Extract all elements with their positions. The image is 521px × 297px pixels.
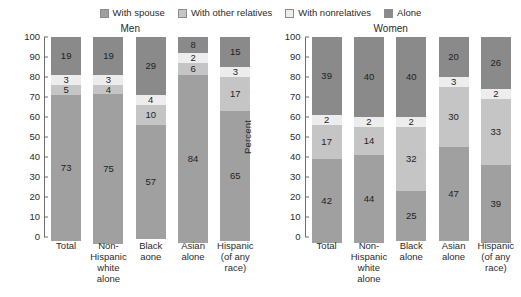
bar-segment-alone[interactable]: 40 [396,37,426,117]
bar-segment-other_relatives[interactable]: 5 [51,85,81,95]
x-axis-label: Blackalone [390,240,432,284]
bar-segment-value: 39 [321,71,332,81]
bar-segment-other_relatives[interactable]: 32 [396,127,426,191]
y-tick-label: 0 [35,232,40,242]
bar-segment-nonrelatives[interactable]: 2 [178,53,208,63]
bar-segment-value: 10 [145,110,156,120]
stacked-bar[interactable]: 3921742 [312,37,342,237]
y-tick-label: 90 [29,52,40,62]
y-tick-label: 50 [29,132,40,142]
bar-segment-value: 4 [148,95,153,105]
y-axis-ticks: 1009080706050403020100 [18,37,44,237]
bar-segment-other_relatives[interactable]: 10 [136,105,166,125]
bar-segment-value: 3 [233,67,238,77]
x-axis-label: Total [306,240,348,284]
bar-segment-alone[interactable]: 19 [51,37,81,75]
bar-segment-alone[interactable]: 15 [220,37,250,67]
bar-segment-nonrelatives[interactable]: 2 [396,117,426,127]
bar-segment-other_relatives[interactable]: 14 [354,127,384,155]
bar-segment-value: 42 [321,196,332,206]
y-tick-label: 100 [24,32,40,42]
x-axis-label-line: alone [433,251,473,262]
bar-segment-nonrelatives[interactable]: 3 [439,77,469,87]
bar-segment-value: 8 [190,40,195,50]
bar-segment-value: 75 [103,164,114,174]
bar-segment-nonrelatives[interactable]: 4 [136,95,166,105]
bar-segment-spouse[interactable]: 39 [481,165,511,243]
bars-container: 1935731934752941057826841531765 [45,37,257,237]
bar-slot: 2941057 [130,37,172,237]
y-axis-ticks: 1009080706050403020100 [279,37,305,237]
bar-slot: 4021444 [348,37,390,237]
bar-segment-alone[interactable]: 39 [312,37,342,115]
bar-segment-value: 2 [324,115,329,125]
bar-segment-value: 2 [190,53,195,63]
bar-segment-spouse[interactable]: 84 [178,75,208,243]
y-tick-label: 10 [29,212,40,222]
chart-panel-women: WomenPercent1009080706050403020100392174… [261,22,521,297]
bar-segment-value: 30 [448,112,459,122]
y-axis-label-holder: Percent [269,37,279,237]
x-axis-label: Hispanic(of anyrace) [214,240,256,284]
x-axis-label-line: (of any [215,251,255,262]
x-axis-label-line: Non- [88,240,128,251]
y-tick-label: 30 [29,172,40,182]
x-axis-label: Blackaone [130,240,172,284]
legend-item-alone: Alone [384,8,421,18]
bars-container: 39217424021444402322520330472623339 [306,37,518,237]
bar-segment-value: 3 [451,77,456,87]
bar-segment-other_relatives[interactable]: 33 [481,99,511,165]
bar-segment-spouse[interactable]: 75 [93,94,123,244]
y-tick-label: 60 [290,112,301,122]
x-axis-label-line: Hispanic [349,251,389,262]
bar-segment-nonrelatives[interactable]: 2 [354,117,384,127]
x-axis-label-line: (of any [476,251,516,262]
bar-segment-value: 6 [190,64,195,74]
bar-segment-nonrelatives[interactable]: 2 [481,89,511,99]
y-tick-label: 60 [29,112,40,122]
bar-segment-alone[interactable]: 8 [178,37,208,53]
stacked-bar[interactable]: 193475 [93,37,123,237]
legend-item-other_relatives: With other relatives [178,8,272,18]
bar-segment-alone[interactable]: 20 [439,37,469,77]
bar-segment-spouse[interactable]: 73 [51,95,81,241]
bar-segment-value: 2 [366,117,371,127]
stacked-bar[interactable]: 2623339 [481,37,511,237]
bar-segment-alone[interactable]: 26 [481,37,511,89]
y-tick-label: 80 [290,72,301,82]
stacked-bar[interactable]: 82684 [178,37,208,237]
stacked-bar[interactable]: 4021444 [354,37,384,237]
bar-segment-other_relatives[interactable]: 6 [178,63,208,75]
x-axis-label-line: Hispanic [215,240,255,251]
bar-segment-spouse[interactable]: 57 [136,125,166,239]
x-axis-label-line: white [349,262,389,273]
bar-segment-value: 2 [409,117,414,127]
y-tick-label: 40 [290,152,301,162]
bar-slot: 4023225 [390,37,432,237]
bar-segment-spouse[interactable]: 47 [439,147,469,241]
bar-slot: 82684 [172,37,214,237]
bar-segment-alone[interactable]: 29 [136,37,166,95]
y-tick-label: 80 [29,72,40,82]
x-axis-label: Hispanic(of anyrace) [475,240,517,284]
stacked-bar[interactable]: 4023225 [396,37,426,237]
bar-segment-other_relatives[interactable]: 17 [312,125,342,159]
bar-slot: 193475 [87,37,129,237]
bar-segment-nonrelatives[interactable]: 3 [220,67,250,77]
y-tick-label: 70 [290,92,301,102]
bar-segment-alone[interactable]: 40 [354,37,384,117]
bar-segment-value: 65 [230,171,241,181]
stacked-bar[interactable]: 2941057 [136,37,166,237]
stacked-bar[interactable]: 193573 [51,37,81,237]
x-axis-label-line: race) [476,262,516,273]
bar-segment-alone[interactable]: 19 [93,37,123,75]
stacked-bar[interactable]: 2033047 [439,37,469,237]
bar-segment-other_relatives[interactable]: 4 [93,85,123,95]
x-axis-label: Non-Hispanicwhitealone [348,240,390,284]
bar-segment-spouse[interactable]: 42 [312,159,342,243]
bar-segment-nonrelatives[interactable]: 2 [312,115,342,125]
bar-segment-spouse[interactable]: 44 [354,155,384,243]
bar-segment-spouse[interactable]: 25 [396,191,426,241]
bar-segment-other_relatives[interactable]: 30 [439,87,469,147]
y-tick-label: 100 [285,32,301,42]
